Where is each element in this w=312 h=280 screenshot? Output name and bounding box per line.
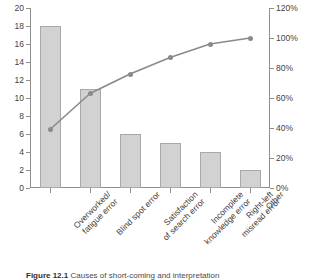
caption-number: Figure 12.1 bbox=[26, 271, 68, 280]
left-tick-label: 8 bbox=[19, 112, 24, 121]
pareto-chart-figure: 02468101214161820 0%20%40%60%80%100%120%… bbox=[0, 0, 312, 280]
right-tick-label: 60% bbox=[276, 94, 293, 103]
left-tick-label: 16 bbox=[15, 40, 24, 49]
cumulative-marker bbox=[248, 36, 253, 41]
right-tick-label: 80% bbox=[276, 64, 293, 73]
cumulative-marker bbox=[128, 72, 133, 77]
left-tick-label: 2 bbox=[19, 166, 24, 175]
left-tick-label: 0 bbox=[19, 184, 24, 193]
right-tick-label: 120% bbox=[276, 4, 298, 13]
left-tick-label: 20 bbox=[15, 4, 24, 13]
right-tick-label: 100% bbox=[276, 34, 298, 43]
right-tick bbox=[270, 158, 274, 159]
right-tick bbox=[270, 68, 274, 69]
category-labels: Overworked/ fatigue errorBlind spot erro… bbox=[30, 190, 270, 260]
right-tick bbox=[270, 38, 274, 39]
cumulative-marker bbox=[88, 91, 93, 96]
left-tick-label: 14 bbox=[15, 58, 24, 67]
right-tick bbox=[270, 188, 274, 189]
category-label: Overworked/ fatigue error bbox=[72, 190, 120, 238]
cumulative-polyline bbox=[50, 38, 250, 130]
right-tick bbox=[270, 8, 274, 9]
right-tick-label: 20% bbox=[276, 154, 293, 163]
left-tick-label: 4 bbox=[19, 148, 24, 157]
plot-area: 02468101214161820 0%20%40%60%80%100%120% bbox=[30, 8, 270, 188]
cumulative-marker bbox=[48, 127, 53, 132]
right-tick-label: 40% bbox=[276, 124, 293, 133]
cumulative-line-series bbox=[30, 8, 270, 188]
right-tick bbox=[270, 128, 274, 129]
figure-caption: Figure 12.1 Causes of short-coming and i… bbox=[26, 271, 312, 280]
right-tick bbox=[270, 98, 274, 99]
left-tick-label: 12 bbox=[15, 76, 24, 85]
cumulative-marker bbox=[208, 42, 213, 47]
cumulative-marker bbox=[168, 55, 173, 60]
left-tick-label: 10 bbox=[15, 94, 24, 103]
left-tick-label: 18 bbox=[15, 22, 24, 31]
caption-text: Causes of short-coming and interpretatio… bbox=[70, 271, 219, 280]
left-tick bbox=[26, 188, 30, 189]
left-tick-label: 6 bbox=[19, 130, 24, 139]
